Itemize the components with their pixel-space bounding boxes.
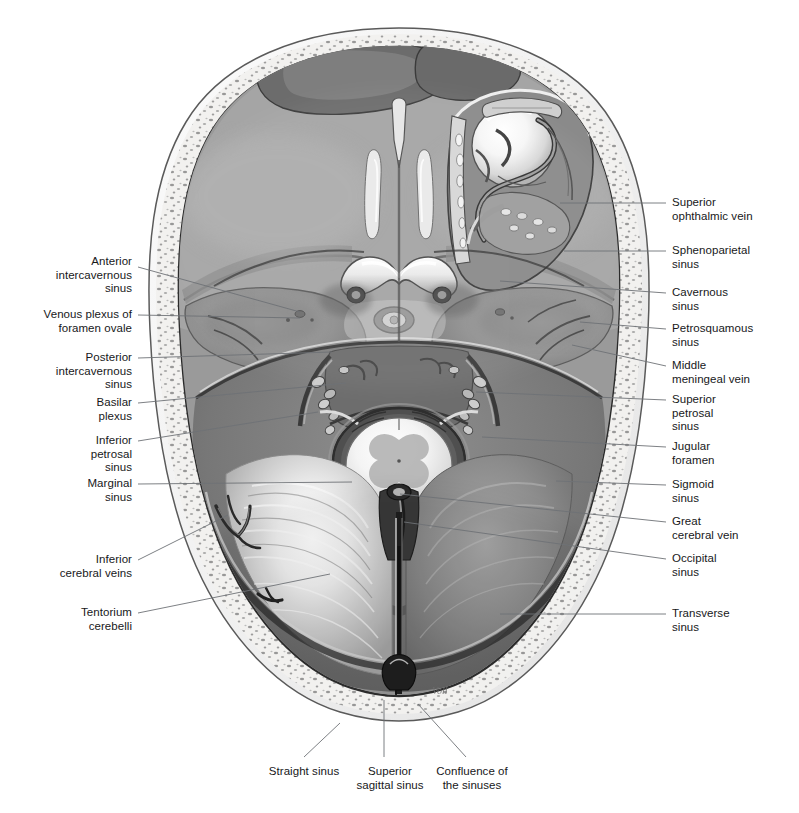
label-cavernous-sinus: Cavernous sinus: [672, 286, 795, 313]
label-confluence-of-the-sinuses: Confluence of the sinuses: [392, 765, 552, 792]
label-basilar-plexus: Basilar plexus: [0, 396, 132, 423]
label-superior-ophthalmic-vein: Superior ophthalmic vein: [672, 196, 795, 223]
label-occipital-sinus: Occipital sinus: [672, 552, 795, 579]
label-petrosquamous-sinus: Petrosquamous sinus: [672, 322, 795, 349]
label-great-cerebral-vein: Great cerebral vein: [672, 515, 795, 542]
label-marginal-sinus: Marginal sinus: [0, 477, 132, 504]
label-anterior-intercavernous-sinus: Anterior intercavernous sinus: [0, 255, 132, 296]
figure-canvas: Voll Anterior intercavernous sinusVenous…: [0, 0, 799, 813]
label-venous-plexus-foramen-ovale: Venous plexus of foramen ovale: [0, 308, 132, 335]
label-middle-meningeal-vein: Middle meningeal vein: [672, 359, 795, 386]
label-jugular-foramen: Jugular foramen: [672, 440, 795, 467]
label-inferior-cerebral-veins: Inferior cerebral veins: [0, 553, 132, 580]
label-inferior-petrosal-sinus: Inferior petrosal sinus: [0, 434, 132, 475]
label-posterior-intercavernous-sinus: Posterior intercavernous sinus: [0, 351, 132, 392]
label-transverse-sinus: Transverse sinus: [672, 607, 795, 634]
label-tentorium-cerebelli: Tentorium cerebelli: [0, 606, 132, 633]
label-sphenoparietal-sinus: Sphenoparietal sinus: [672, 244, 795, 271]
label-sigmoid-sinus: Sigmoid sinus: [672, 478, 795, 505]
artist-signature: Voll: [432, 685, 448, 696]
label-superior-petrosal-sinus: Superior petrosal sinus: [672, 393, 795, 434]
